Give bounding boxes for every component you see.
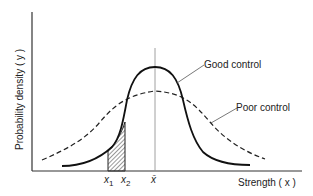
good-control-leader	[177, 65, 204, 83]
x1-tick-label: x1	[103, 174, 114, 188]
poor-control-leader	[211, 108, 237, 123]
mean-tick-label: x̄	[150, 174, 157, 185]
x2-tick-label: x2	[120, 174, 131, 188]
diagram-canvas: Good control Poor control Probability de…	[0, 0, 313, 196]
poor-control-label: Poor control	[236, 102, 290, 113]
shaded-region	[108, 122, 125, 171]
poor-control-curve	[42, 91, 265, 160]
x-axis-label: Strength ( x )	[238, 177, 296, 188]
y-axis-label: Probability density ( y )	[14, 49, 25, 150]
good-control-label: Good control	[204, 59, 261, 70]
